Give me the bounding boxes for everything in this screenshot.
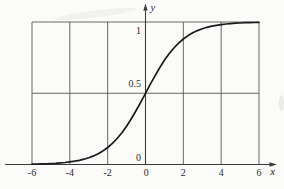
- x-tick-label: 0: [144, 167, 149, 178]
- y-axis-label: y: [150, 2, 156, 13]
- x-tick-label: 2: [181, 167, 186, 178]
- logistic-curve-figure: -6-4-2024600.51xy: [0, 0, 284, 189]
- paper-background: [0, 0, 284, 189]
- scan-smudge: [279, 95, 284, 111]
- y-tick-label: 0: [136, 152, 141, 163]
- sigmoid-plot-svg: -6-4-2024600.51xy: [0, 0, 284, 189]
- x-tick-label: 6: [257, 167, 262, 178]
- y-tick-label: 0.5: [129, 78, 142, 89]
- x-tick-label: 4: [219, 167, 224, 178]
- x-tick-label: -2: [103, 167, 111, 178]
- x-axis-label: x: [269, 166, 275, 177]
- x-tick-label: -6: [28, 167, 36, 178]
- x-tick-label: -4: [66, 167, 74, 178]
- y-tick-label: 1: [136, 25, 141, 36]
